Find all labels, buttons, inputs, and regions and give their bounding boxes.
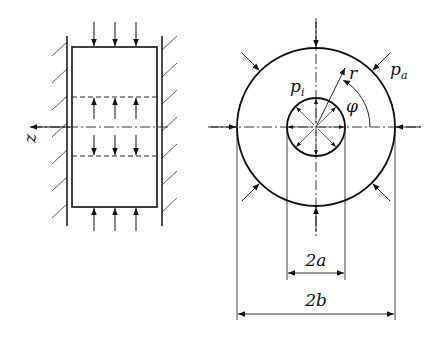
- inner-pressure-label: pi: [290, 76, 304, 99]
- hatch-line: [52, 69, 67, 83]
- inner-diameter-label: 2a: [305, 250, 327, 270]
- right-wall-hatching: [162, 36, 177, 212]
- axial-load-arrows: [94, 22, 136, 231]
- outer-pressure-arrow: [373, 53, 391, 71]
- hatch-line: [52, 123, 67, 137]
- diagram: z r φ pi pa 2a 2b: [0, 0, 440, 337]
- hatch-line: [52, 42, 67, 56]
- hatch-line: [162, 63, 177, 77]
- hatch-line: [52, 177, 67, 191]
- outer-pressure-arrow: [242, 184, 260, 202]
- left-wall-hatching: [52, 42, 67, 218]
- z-axis-label: z: [20, 133, 40, 144]
- angle-label: φ: [346, 96, 358, 116]
- outer-pressure-arrow: [242, 53, 260, 71]
- left-view: z: [20, 22, 177, 231]
- hatch-line: [52, 96, 67, 110]
- hatch-line: [162, 117, 177, 131]
- inner-pressure-arrow: [318, 129, 336, 147]
- inner-pressure-arrow: [296, 107, 314, 125]
- right-view: r φ pi pa 2a 2b: [208, 18, 424, 320]
- inner-pressure-arrow: [296, 129, 314, 147]
- outer-diameter-label: 2b: [304, 290, 327, 310]
- hatch-line: [162, 144, 177, 158]
- radius-label: r: [349, 63, 358, 83]
- outer-pressure-label: pa: [390, 59, 407, 82]
- hatch-line: [162, 198, 177, 212]
- hatch-line: [52, 204, 67, 218]
- hatch-line: [162, 171, 177, 185]
- inner-pressure-arrow: [318, 107, 336, 125]
- hatch-line: [162, 36, 177, 50]
- outer-pressure-arrow: [373, 184, 391, 202]
- hatch-line: [52, 150, 67, 164]
- hatch-line: [162, 90, 177, 104]
